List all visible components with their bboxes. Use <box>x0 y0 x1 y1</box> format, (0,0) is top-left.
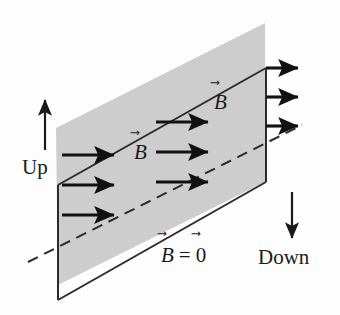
zero-symbol: 0 <box>196 243 207 267</box>
field-arrow-group-right <box>266 68 298 126</box>
b-field-label-upper: ⃗B <box>214 92 227 113</box>
b-symbol: B <box>134 140 147 164</box>
b-equals-zero-label: ⃗B = ⃗0 <box>161 243 206 268</box>
b-field-label-lower: ⃗B <box>134 142 147 163</box>
down-label: Down <box>258 247 309 268</box>
b-symbol: B <box>161 243 174 267</box>
equals-sign: = <box>179 243 191 268</box>
b-symbol: B <box>214 90 227 114</box>
physics-diagram: Up Down ⃗B ⃗B ⃗B = ⃗0 <box>0 0 340 315</box>
up-label: Up <box>22 157 48 178</box>
